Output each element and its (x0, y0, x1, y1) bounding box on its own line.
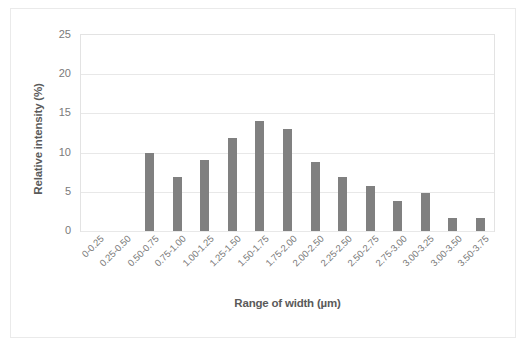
bar[interactable] (311, 162, 320, 231)
bar-slot (164, 35, 192, 231)
y-axis-tick-label: 25 (59, 28, 71, 40)
bar-slot (274, 35, 302, 231)
bar[interactable] (173, 177, 182, 231)
y-axis-tick-labels: 0510152025 (42, 34, 75, 232)
bar[interactable] (145, 153, 154, 231)
y-axis-tick-label: 15 (59, 106, 71, 118)
bar-slot (136, 35, 164, 231)
y-axis-tick-label: 20 (59, 67, 71, 79)
bar-slot (439, 35, 467, 231)
bars-container (81, 35, 494, 231)
bar[interactable] (255, 121, 264, 231)
bar[interactable] (476, 218, 485, 231)
bar[interactable] (338, 177, 347, 231)
bar[interactable] (421, 193, 430, 231)
plot-area (80, 34, 495, 232)
bar[interactable] (283, 129, 292, 231)
bar-slot (384, 35, 412, 231)
bar[interactable] (200, 160, 209, 231)
y-axis-tick-label: 5 (65, 185, 71, 197)
y-axis-tick-label: 10 (59, 146, 71, 158)
bar-slot (81, 35, 109, 231)
bar[interactable] (366, 186, 375, 231)
bar-chart-figure: Relative intensity (%) 0510152025 0-0.25… (0, 0, 528, 349)
bar-slot (191, 35, 219, 231)
bar[interactable] (393, 201, 402, 231)
bar-slot (246, 35, 274, 231)
bar[interactable] (448, 218, 457, 231)
bar-slot (411, 35, 439, 231)
y-axis-tick-label: 0 (65, 224, 71, 236)
bar[interactable] (228, 138, 237, 231)
bar-slot (109, 35, 137, 231)
bar-slot (466, 35, 494, 231)
x-axis-title: Range of width (µm) (80, 297, 495, 309)
bar-slot (301, 35, 329, 231)
bar-slot (329, 35, 357, 231)
gridline (81, 231, 494, 232)
bar-slot (356, 35, 384, 231)
bar-slot (219, 35, 247, 231)
x-axis-tick-labels: 0-0.250.25-0.500.50-0.750.75-1.001.00-1.… (80, 233, 495, 295)
